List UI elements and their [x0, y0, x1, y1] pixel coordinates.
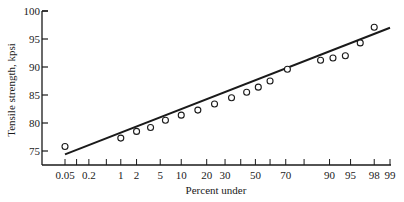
data-points	[62, 24, 377, 149]
y-tick-label: 85	[29, 89, 41, 101]
data-point	[371, 24, 377, 30]
y-tick-label: 80	[29, 117, 41, 129]
x-ticks: 0.050.2125102030507090959899	[55, 159, 396, 181]
y-tick-label: 100	[24, 5, 41, 17]
x-tick-label: 90	[324, 169, 336, 181]
x-axis-label: Percent under	[186, 184, 247, 196]
x-tick-label: 70	[280, 169, 292, 181]
data-point	[255, 84, 261, 90]
data-point	[134, 128, 140, 134]
data-point	[330, 55, 336, 61]
x-tick-label: 1	[118, 169, 124, 181]
data-point	[244, 89, 250, 95]
x-tick-label: 50	[250, 169, 262, 181]
y-tick-label: 95	[29, 33, 41, 45]
data-point	[284, 66, 290, 72]
y-axis-label: Tensile strength, kpsi	[5, 43, 17, 137]
data-point	[162, 117, 168, 123]
data-point	[118, 135, 124, 141]
data-point	[229, 95, 235, 101]
probability-plot: 7580859095100 0.050.21251020305070909598…	[0, 0, 404, 202]
y-tick-label: 75	[29, 145, 41, 157]
data-point	[318, 57, 324, 63]
x-tick-label: 95	[345, 169, 357, 181]
data-point	[62, 144, 68, 150]
y-ticks: 7580859095100	[24, 5, 49, 157]
x-tick-label: 0.05	[55, 169, 75, 181]
x-tick-label: 5	[157, 169, 163, 181]
data-point	[212, 101, 218, 107]
data-point	[267, 78, 273, 84]
x-tick-label: 99	[385, 169, 397, 181]
x-tick-label: 10	[176, 169, 188, 181]
data-point	[195, 107, 201, 113]
y-tick-label: 90	[29, 61, 41, 73]
data-point	[148, 124, 154, 130]
data-point	[178, 112, 184, 118]
x-tick-label: 20	[201, 169, 213, 181]
data-point	[342, 53, 348, 59]
data-point	[357, 40, 363, 46]
fitted-line	[65, 28, 390, 155]
x-tick-label: 98	[369, 169, 381, 181]
fit-line-segment	[65, 28, 390, 155]
x-tick-label: 0.2	[82, 169, 96, 181]
x-tick-label: 30	[220, 169, 232, 181]
x-tick-label: 2	[134, 169, 140, 181]
